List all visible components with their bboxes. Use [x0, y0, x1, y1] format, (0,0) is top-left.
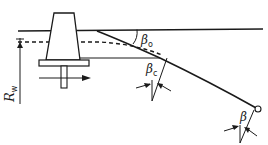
- cable-end-point: [255, 106, 261, 112]
- cable-angle-diagram: Rw βo βc β: [0, 0, 268, 145]
- beta0-label: βo: [140, 33, 153, 49]
- motion-arrow-head: [82, 75, 91, 81]
- rw-label: Rw: [2, 85, 19, 103]
- beta0-angle-arc: [133, 30, 137, 45]
- betac-label: βc: [145, 62, 157, 78]
- rw-arrow-head: [17, 42, 23, 48]
- betac-left-arrowhead: [144, 83, 151, 88]
- beta-label: β: [239, 110, 247, 124]
- betac-right-arrowhead: [157, 83, 163, 89]
- beta-left-arrowhead: [232, 125, 239, 130]
- cable-curve: [97, 31, 258, 109]
- drum-shaft: [61, 66, 67, 88]
- betac-angle-indicator: [152, 58, 167, 101]
- drum-base-plate: [39, 60, 89, 66]
- drum-body: [46, 13, 80, 60]
